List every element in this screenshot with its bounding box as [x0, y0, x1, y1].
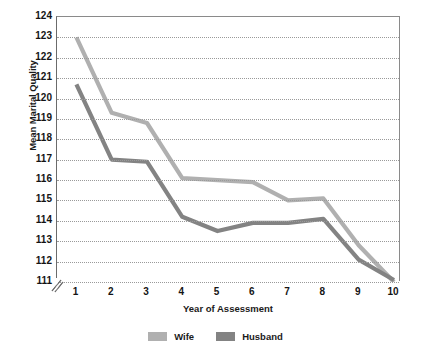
- y-axis-tick-label: 120: [35, 93, 52, 103]
- y-axis-tick-label: 121: [35, 72, 52, 82]
- x-axis-tick-label: 6: [240, 285, 264, 298]
- legend-swatch-icon: [216, 332, 235, 341]
- y-axis-tick-labels: 1241231221211201191181171161151141131121…: [18, 0, 52, 357]
- y-axis-tick-label: 119: [36, 113, 52, 123]
- x-axis-tick-label: 3: [134, 285, 158, 298]
- chart-legend: WifeHusband: [0, 331, 431, 342]
- x-axis-tick-label: 4: [169, 285, 193, 298]
- y-axis-tick-label: 116: [36, 174, 52, 184]
- legend-label: Husband: [242, 331, 283, 342]
- x-axis-title: Year of Assessment: [56, 303, 400, 314]
- x-axis-tick-label: 1: [63, 285, 87, 298]
- x-axis-tick-labels: 12345678910: [0, 285, 431, 301]
- y-axis-tick-label: 122: [35, 52, 52, 62]
- x-axis-tick-label: 9: [346, 285, 370, 298]
- y-axis-tick-label: 114: [36, 215, 52, 225]
- legend-swatch-icon: [148, 332, 167, 341]
- y-axis-tick-label: 118: [36, 133, 52, 143]
- x-axis-tick-label: 10: [381, 285, 405, 298]
- marital-quality-line-chart: Mean Marital Quality 1241231221211201191…: [0, 0, 431, 357]
- legend-item-wife[interactable]: Wife: [148, 331, 194, 342]
- y-axis-tick-label: 115: [36, 194, 52, 204]
- legend-label: Wife: [174, 331, 194, 342]
- x-axis-tick-label: 8: [310, 285, 334, 298]
- y-axis-tick-label: 113: [36, 235, 52, 245]
- series-lines: [57, 17, 401, 282]
- y-axis-tick-label: 117: [36, 154, 52, 164]
- legend-item-husband[interactable]: Husband: [216, 331, 283, 342]
- x-axis-tick-label: 5: [205, 285, 229, 298]
- x-axis-tick-label: 7: [275, 285, 299, 298]
- y-axis-tick-label: 112: [36, 256, 52, 266]
- gridline: [57, 282, 399, 283]
- x-axis-tick-label: 2: [99, 285, 123, 298]
- plot-area: [56, 16, 400, 281]
- y-axis-tick-label: 124: [35, 11, 52, 21]
- y-axis-tick-label: 123: [35, 31, 52, 41]
